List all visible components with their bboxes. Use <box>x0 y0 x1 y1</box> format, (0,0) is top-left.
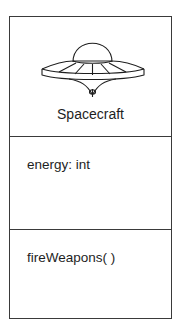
ufo-spacecraft-icon <box>10 17 173 107</box>
operations-compartment: fireWeapons( ) <box>10 229 171 318</box>
attributes-compartment: energy: int <box>10 136 171 229</box>
operation-fire-weapons: fireWeapons( ) <box>27 250 115 265</box>
class-name-compartment: Spacecraft <box>10 17 171 136</box>
class-name: Spacecraft <box>10 106 171 122</box>
attribute-energy: energy: int <box>27 157 90 172</box>
uml-class-box: Spacecraft energy: int fireWeapons( ) <box>9 16 172 319</box>
